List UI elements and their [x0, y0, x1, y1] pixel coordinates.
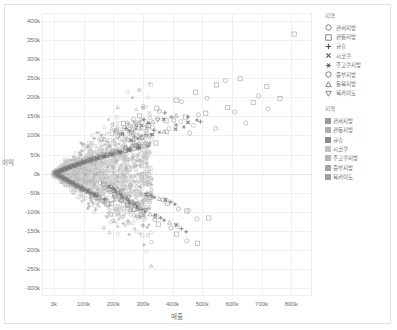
color-swatch: [325, 155, 331, 161]
triangle-up-icon: [323, 80, 334, 89]
legend-item-label: 관동지방: [333, 126, 353, 134]
scatter-chart: 400k350k300k250k200k150k100k50k0k-50k-10…: [0, 0, 397, 330]
triangle-down-icon: [323, 89, 334, 98]
legend-item[interactable]: 주고쿠지방: [323, 154, 389, 163]
y-tick-label: 150k: [0, 113, 40, 119]
legend-item-label: 규슈: [333, 136, 343, 144]
legend-title: 지역: [325, 12, 389, 20]
x-axis-ticks: 0k100k200k300k400k500k600k700k800k: [42, 301, 312, 311]
legend-item[interactable]: 동북지방: [323, 79, 389, 88]
legend-item[interactable]: 북카이도: [323, 89, 389, 98]
color-swatch: [325, 118, 331, 124]
legend-item[interactable]: 관서지방: [323, 23, 389, 32]
legend-item-label: 북카이도: [333, 173, 353, 181]
asterisk-icon: [323, 61, 334, 70]
legend-item[interactable]: 규슈: [323, 42, 389, 51]
legend-item[interactable]: 중부지방: [323, 70, 389, 79]
legend-item[interactable]: 중부지방: [323, 163, 389, 172]
legend-item-label: 규슈: [336, 42, 346, 50]
legend-item[interactable]: 시코쿠: [323, 144, 389, 153]
color-swatch: [325, 165, 331, 171]
y-tick-label: -250k: [0, 266, 40, 272]
y-tick-label: -200k: [0, 247, 40, 253]
legend-item[interactable]: 규슈: [323, 135, 389, 144]
plot-area: [42, 13, 312, 296]
legend-item[interactable]: 관동지방: [323, 32, 389, 41]
color-swatch: [325, 146, 331, 152]
legend-color: 지역관서지방관동지방규슈시코쿠주고쿠지방중부지방북카이도: [323, 105, 389, 182]
y-tick-label: 200k: [0, 94, 40, 100]
x-tick-label: 800k: [271, 301, 311, 307]
legend-item-label: 시코쿠: [336, 52, 351, 60]
y-tick-label: -150k: [0, 228, 40, 234]
legend-item[interactable]: 관서지방: [323, 116, 389, 125]
legend-item-label: 관서지방: [336, 24, 356, 32]
legend-item-label: 북카이도: [336, 89, 356, 97]
y-axis-ticks: 400k350k300k250k200k150k100k50k0k-50k-10…: [0, 13, 40, 296]
y-tick-label: 400k: [0, 18, 40, 24]
dense-cluster: [52, 82, 153, 268]
y-tick-label: 0k: [0, 171, 40, 177]
legend-shape: 지역관서지방관동지방규슈시코쿠주고쿠지방중부지방동북지방북카이도: [323, 12, 389, 98]
color-swatch: [325, 174, 331, 180]
circle-open-icon: [323, 70, 334, 79]
circle-icon: [323, 23, 334, 32]
series-관동지방: [53, 32, 296, 245]
color-swatch: [325, 127, 331, 133]
y-tick-label: 250k: [0, 75, 40, 81]
y-tick-label: 350k: [0, 37, 40, 43]
legend-item[interactable]: 관동지방: [323, 126, 389, 135]
legend-item-label: 주고쿠지방: [336, 61, 361, 69]
legend-title: 지역: [325, 105, 389, 113]
y-tick-label: -50k: [0, 190, 40, 196]
y-tick-label: -100k: [0, 209, 40, 215]
legend-item-label: 중부지방: [333, 164, 353, 172]
plus-icon: [323, 42, 334, 51]
legend-item-label: 관동지방: [336, 33, 356, 41]
y-axis-label: 이익: [2, 157, 14, 167]
legend-item-label: 관서지방: [333, 117, 353, 125]
legend-container: 지역관서지방관동지방규슈시코쿠주고쿠지방중부지방동북지방북카이도지역관서지방관동…: [323, 12, 389, 182]
legend-item-label: 중부지방: [336, 71, 356, 79]
color-swatch: [325, 137, 331, 143]
legend-item[interactable]: 북카이도: [323, 172, 389, 181]
legend-item-label: 주고쿠지방: [333, 154, 358, 162]
y-tick-label: -300k: [0, 285, 40, 291]
y-tick-label: 100k: [0, 132, 40, 138]
legend-item[interactable]: 주고쿠지방: [323, 61, 389, 70]
legend-item-label: 동북지방: [336, 80, 356, 88]
legend-item-label: 시코쿠: [333, 145, 348, 153]
data-points: [42, 13, 312, 296]
x-axis-label: 매출: [42, 311, 312, 321]
square-icon: [323, 33, 334, 42]
y-tick-label: 300k: [0, 56, 40, 62]
x-icon: [323, 51, 334, 60]
legend-item[interactable]: 시코쿠: [323, 51, 389, 60]
